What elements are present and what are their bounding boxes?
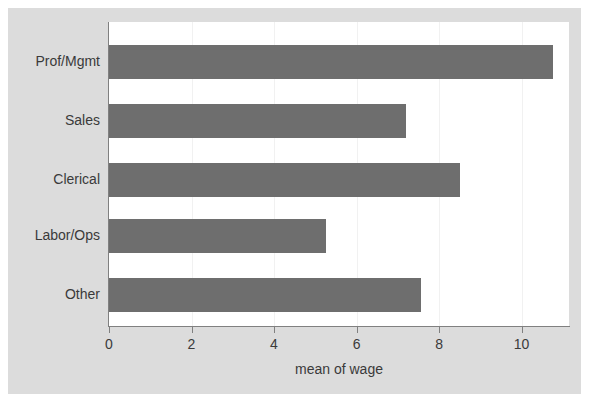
bar-labor-ops[interactable]	[109, 219, 326, 253]
x-tick-8	[439, 327, 440, 333]
y-axis-label-prof-mgmt: Prof/Mgmt	[0, 53, 100, 69]
bar-clerical[interactable]	[109, 163, 460, 197]
x-tick-label-8: 8	[419, 336, 459, 352]
chart-screenshot: Prof/Mgmt Sales Clerical Labor/Ops Other…	[0, 0, 589, 402]
bar-prof-mgmt[interactable]	[109, 45, 553, 79]
x-tick-label-6: 6	[337, 336, 377, 352]
y-axis-label-sales: Sales	[0, 112, 100, 128]
x-tick-6	[357, 327, 358, 333]
bar-other[interactable]	[109, 278, 421, 312]
x-tick-label-2: 2	[172, 336, 212, 352]
y-axis-label-clerical: Clerical	[0, 171, 100, 187]
x-tick-label-10: 10	[502, 336, 542, 352]
x-tick-0	[109, 327, 110, 333]
x-tick-2	[192, 327, 193, 333]
bar-sales[interactable]	[109, 104, 406, 138]
x-tick-label-0: 0	[89, 336, 129, 352]
x-tick-10	[522, 327, 523, 333]
y-axis-label-other: Other	[0, 286, 100, 302]
y-axis-line	[108, 22, 109, 327]
x-tick-label-4: 4	[254, 336, 294, 352]
x-tick-4	[274, 327, 275, 333]
y-axis-label-labor-ops: Labor/Ops	[0, 227, 100, 243]
plot-panel	[109, 22, 569, 326]
x-axis-title: mean of wage	[109, 361, 569, 377]
x-axis-line	[108, 326, 570, 327]
